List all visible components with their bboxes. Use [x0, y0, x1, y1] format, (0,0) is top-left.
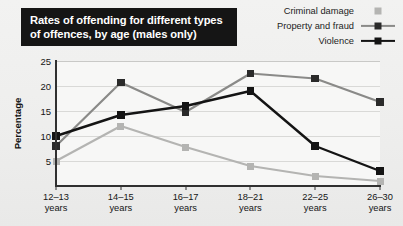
x-tick-label: 12–13years — [43, 192, 69, 214]
chart-figure: Rates of offending for different types o… — [0, 0, 403, 226]
square-marker-icon — [375, 37, 382, 44]
chart-title-block: Rates of offending for different types o… — [21, 8, 237, 46]
y-axis-label-text: Percentage — [13, 98, 24, 150]
legend-label-property-and-fraud: Property and fraud — [277, 21, 354, 31]
plot-area: 510152025 12–13years14–15years16–17years… — [56, 61, 380, 186]
x-tick-label: 22–25years — [302, 192, 328, 214]
data-point-marker — [376, 98, 384, 106]
data-point-marker — [117, 111, 125, 119]
data-point-marker — [311, 142, 319, 150]
data-point-marker — [182, 102, 190, 110]
data-point-marker — [247, 87, 255, 95]
legend-label-violence: Violence — [319, 36, 355, 46]
legend-item-criminal-damage: Criminal damage — [284, 5, 395, 16]
page-title: Rates of offending for different types o… — [30, 13, 228, 41]
square-marker-icon — [375, 7, 382, 14]
y-axis-line — [55, 60, 57, 187]
x-tick-label: 14–15years — [108, 192, 134, 214]
data-point-marker — [376, 167, 384, 175]
legend-swatch-property-and-fraud — [361, 20, 395, 31]
data-point-marker — [311, 75, 319, 83]
legend-item-violence: Violence — [319, 35, 396, 46]
x-tick-label: 18–21years — [237, 192, 263, 214]
data-point-marker — [182, 144, 189, 151]
y-tick-label: 10 — [40, 131, 51, 142]
series-line — [56, 91, 380, 171]
chart-legend: Criminal damage Property and fraud Viole… — [277, 5, 395, 46]
data-point-marker — [117, 123, 124, 130]
x-axis-line — [55, 185, 381, 187]
x-tick-label: 16–17years — [173, 192, 199, 214]
legend-item-property-and-fraud: Property and fraud — [277, 20, 395, 31]
y-tick-label: 5 — [46, 156, 51, 167]
legend-swatch-violence — [361, 35, 395, 46]
y-tick-label: 25 — [40, 56, 51, 67]
y-tick-label: 15 — [40, 106, 51, 117]
series-container — [56, 61, 380, 186]
data-point-marker — [117, 79, 125, 87]
y-axis-label: Percentage — [11, 61, 25, 186]
series-property-and-fraud — [52, 70, 384, 150]
x-tick-label: 26–30years — [367, 192, 393, 214]
data-point-marker — [312, 173, 319, 180]
data-point-marker — [247, 70, 255, 78]
data-point-marker — [377, 178, 384, 185]
legend-label-criminal-damage: Criminal damage — [284, 6, 354, 16]
legend-swatch-criminal-damage — [361, 5, 395, 16]
data-point-marker — [247, 163, 254, 170]
y-tick-label: 20 — [40, 81, 51, 92]
square-marker-icon — [375, 22, 382, 29]
